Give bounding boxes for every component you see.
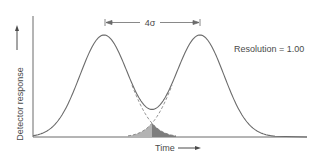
x-axis-arrow-icon: [178, 146, 201, 150]
x-axis-label: Time: [155, 143, 175, 153]
chromatogram-chart: 4σ Resolution = 1.00 Detector response T…: [0, 0, 325, 159]
arrow-left-icon: [106, 21, 112, 25]
overlap-region: [128, 123, 176, 137]
y-axis-arrow-icon: [15, 25, 19, 50]
resolution-annotation: Resolution = 1.00: [234, 44, 304, 54]
y-axis-label: Detector response: [15, 67, 25, 141]
separation-label: 4σ: [145, 18, 156, 28]
arrow-right-icon: [193, 21, 199, 25]
